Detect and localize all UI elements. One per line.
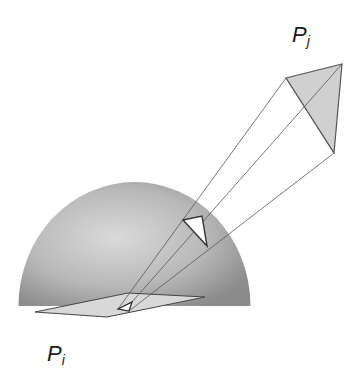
patch-pj: [286, 64, 342, 153]
label-pj: Pj: [292, 24, 310, 46]
label-pi-subscript: i: [62, 352, 65, 368]
label-pi-base: P: [47, 341, 62, 366]
label-pj-base: P: [292, 22, 307, 47]
hemicube-diagram: [0, 0, 358, 384]
label-pj-subscript: j: [307, 33, 310, 49]
label-pi: Pi: [47, 343, 65, 365]
